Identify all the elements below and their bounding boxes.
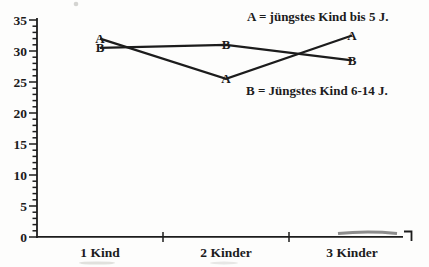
data-point-marker-b: B bbox=[96, 40, 105, 55]
y-tick-label: 15 bbox=[14, 137, 28, 152]
legend-series-b: B = Jüngstes Kind 6-14 J. bbox=[246, 83, 388, 99]
line-chart: 051015202530351 Kind2 Kinder3 KinderAAAB… bbox=[0, 0, 429, 267]
x-category-label: 2 Kinder bbox=[200, 245, 251, 260]
y-tick-label: 5 bbox=[20, 199, 27, 214]
scan-smudge bbox=[79, 261, 115, 264]
x-category-label: 1 Kind bbox=[80, 245, 120, 260]
scanned-line-chart-figure: 051015202530351 Kind2 Kinder3 KinderAAAB… bbox=[0, 0, 429, 267]
x-category-label: 3 Kinder bbox=[326, 245, 377, 260]
y-tick-label: 0 bbox=[20, 230, 27, 245]
legend-series-a: A = jüngstes Kind bis 5 J. bbox=[247, 9, 388, 25]
scan-speckle bbox=[74, 2, 79, 7]
y-tick-label: 35 bbox=[14, 13, 28, 28]
data-point-marker-a: A bbox=[347, 28, 357, 43]
data-point-marker-b: B bbox=[222, 37, 231, 52]
data-point-marker-b: B bbox=[348, 53, 357, 68]
y-tick-label: 25 bbox=[14, 75, 28, 90]
data-point-marker-a: A bbox=[221, 71, 231, 86]
y-tick-label: 30 bbox=[14, 44, 28, 59]
y-tick-label: 10 bbox=[14, 168, 28, 183]
scan-smudge bbox=[210, 262, 238, 265]
scan-smudge-axis bbox=[338, 232, 397, 234]
x-axis-end-corner bbox=[404, 232, 412, 242]
y-tick-label: 20 bbox=[14, 106, 28, 121]
